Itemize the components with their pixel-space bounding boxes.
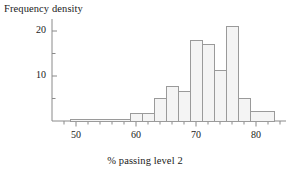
histogram-bar [178,91,190,121]
histogram-bar [238,99,250,122]
histogram-bar [250,111,274,121]
histogram-bar [130,114,142,121]
x-axis-tick-label: 50 [64,129,88,140]
y-axis-tick-label: 20 [22,24,46,35]
histogram-bar [214,71,226,121]
histogram-bar [154,99,166,122]
x-axis-tick-label: 60 [124,129,148,140]
y-axis-tick-label: 10 [22,69,46,80]
x-axis-tick-label: 70 [184,129,208,140]
histogram-bar [70,120,130,121]
histogram-bar [202,45,214,122]
histogram-figure: Frequency density 102050607080 % passing… [0,0,290,178]
histogram-bar [166,87,178,121]
histogram-bar [142,114,154,121]
histogram-bar [226,27,238,122]
histogram-bar [190,40,202,121]
x-axis-title: % passing level 2 [0,155,290,166]
x-axis-tick-label: 80 [244,129,268,140]
